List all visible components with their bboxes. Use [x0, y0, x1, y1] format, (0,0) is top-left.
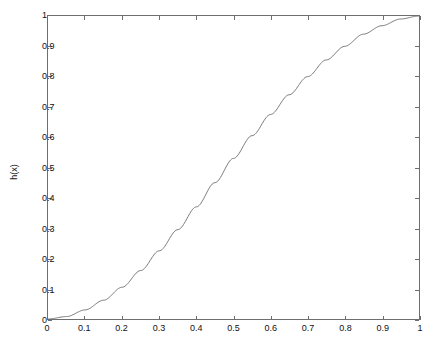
plot-area [47, 15, 420, 320]
y-tick-right [415, 76, 419, 77]
x-tick-bottom [308, 316, 309, 320]
x-tick-label: 0.6 [265, 323, 278, 334]
x-tick-top [47, 16, 48, 20]
y-tick-left [48, 15, 52, 16]
y-tick-right [415, 290, 419, 291]
x-tick-top [271, 16, 272, 20]
x-tick-top [345, 16, 346, 20]
y-tick-right [415, 168, 419, 169]
x-tick-bottom [271, 316, 272, 320]
x-tick-label: 0.7 [302, 323, 315, 334]
x-tick-top [308, 16, 309, 20]
y-axis-label: h(x) [9, 164, 19, 180]
x-tick-bottom [345, 316, 346, 320]
x-tick-label: 0.1 [78, 323, 91, 334]
y-tick-right [415, 259, 419, 260]
x-tick-label: 0.3 [153, 323, 166, 334]
y-tick-right [415, 46, 419, 47]
x-tick-label: 0.5 [227, 323, 240, 334]
x-tick-label: 0.9 [376, 323, 389, 334]
y-tick-right [415, 15, 419, 16]
x-tick-bottom [122, 316, 123, 320]
y-tick-right [415, 320, 419, 321]
x-tick-top [420, 16, 421, 20]
x-tick-top [84, 16, 85, 20]
y-tick-left [48, 320, 52, 321]
x-tick-bottom [84, 316, 85, 320]
x-tick-top [196, 16, 197, 20]
x-tick-label: 0 [44, 323, 49, 334]
data-series-hx [48, 16, 419, 319]
x-tick-top [159, 16, 160, 20]
x-tick-bottom [383, 316, 384, 320]
x-tick-label: 0.8 [339, 323, 352, 334]
y-tick-right [415, 107, 419, 108]
x-tick-bottom [234, 316, 235, 320]
y-tick-right [415, 229, 419, 230]
x-tick-top [122, 16, 123, 20]
y-tick-right [415, 137, 419, 138]
x-tick-label: 0.2 [115, 323, 128, 334]
x-tick-label: 0.4 [190, 323, 203, 334]
x-tick-bottom [159, 316, 160, 320]
curve-svg [48, 16, 419, 319]
x-tick-label: 1 [417, 323, 422, 334]
figure: 00.10.20.30.40.50.60.70.80.9100.10.20.30… [0, 0, 437, 350]
x-tick-top [234, 16, 235, 20]
x-tick-bottom [420, 316, 421, 320]
x-tick-bottom [196, 316, 197, 320]
x-tick-top [383, 16, 384, 20]
y-tick-right [415, 198, 419, 199]
